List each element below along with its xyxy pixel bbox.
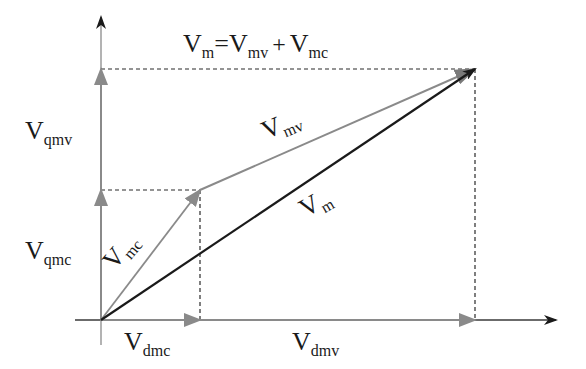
vqmv-label: Vqmv: [25, 118, 72, 144]
eq-v1: V: [183, 29, 202, 58]
vqmc-label: Vqmc: [25, 238, 71, 264]
eq-s1: m: [202, 44, 214, 61]
eq-plus: +: [272, 31, 286, 57]
eq-v2: V: [229, 29, 248, 58]
eq-s2: mv: [248, 44, 268, 61]
vector-diagram: Vm=Vmv + Vmc Vqmv Vqmc Vmv Vmc Vm Vdmc V…: [0, 0, 586, 369]
axes: [75, 17, 556, 345]
vmv-vector: [200, 69, 475, 190]
eq-v3: V: [290, 29, 309, 58]
eq-equals: =: [214, 29, 229, 58]
equation-label: Vm=Vmv + Vmc: [183, 31, 328, 57]
vdmv-label: Vdmv: [292, 329, 339, 355]
eq-s3: mc: [308, 44, 328, 61]
vdmc-label: Vdmc: [124, 329, 170, 355]
